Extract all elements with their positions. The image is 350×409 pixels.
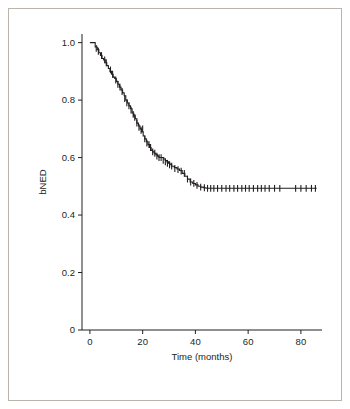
- kaplan-meier-plot: 00.20.40.60.81.0020406080Time (months)bN…: [0, 0, 350, 409]
- y-tick-label: 1.0: [62, 37, 75, 48]
- censor-marks-group: [96, 45, 315, 192]
- y-tick-label: 0.4: [62, 209, 75, 220]
- y-tick-label: 0.8: [62, 94, 75, 105]
- y-tick-label: 0.2: [62, 267, 75, 278]
- figure-container: 00.20.40.60.81.0020406080Time (months)bN…: [0, 0, 350, 409]
- x-tick-label: 20: [137, 336, 148, 347]
- survival-curve: [90, 43, 317, 189]
- x-tick-label: 60: [243, 336, 254, 347]
- x-tick-label: 40: [190, 336, 201, 347]
- x-axis-label: Time (months): [172, 351, 233, 362]
- y-tick-label: 0: [70, 324, 75, 335]
- x-tick-label: 0: [87, 336, 92, 347]
- y-axis-label: bNED: [37, 169, 48, 194]
- y-tick-label: 0.6: [62, 152, 75, 163]
- x-tick-label: 80: [296, 336, 307, 347]
